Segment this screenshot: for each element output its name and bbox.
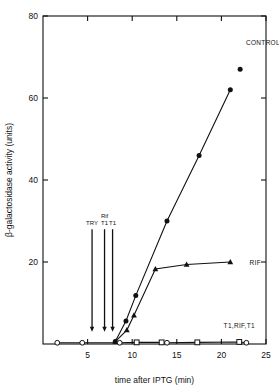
y-tick-label: 40 [29, 175, 39, 185]
annotation-label: T1 [109, 220, 117, 226]
data-point [134, 340, 139, 345]
series-label-t1-rif-t1: T1,RIF,T1 [224, 322, 255, 329]
data-point [131, 312, 137, 317]
data-point [117, 340, 122, 345]
x-tick-label: 10 [127, 350, 137, 360]
annotation-label-upper: Rif [101, 213, 109, 219]
data-point [124, 327, 130, 332]
series-line [115, 90, 230, 342]
data-point [159, 340, 164, 345]
data-point [165, 340, 170, 345]
x-tick-label: 15 [172, 350, 182, 360]
data-point [164, 219, 169, 224]
annotation-arrow-head [102, 327, 106, 332]
x-tick-label: 25 [261, 350, 271, 360]
annotation-arrow-head [90, 327, 94, 332]
y-tick-label: 60 [29, 93, 39, 103]
annotation-arrow-head [110, 327, 114, 332]
data-point [238, 67, 243, 72]
data-point [244, 340, 249, 345]
chart-figure: 51015202520406080time after IPTG (min)β-… [0, 0, 279, 390]
data-point [237, 340, 242, 345]
series-control [115, 90, 230, 342]
x-axis-label: time after IPTG (min) [115, 375, 195, 385]
y-tick-label: 80 [29, 11, 39, 21]
annotation-label: T1 [101, 220, 109, 226]
x-tick-label: 5 [85, 350, 90, 360]
series-label-control: CONTROL [246, 39, 279, 46]
scatter-line-plot: 51015202520406080time after IPTG (min)β-… [0, 0, 279, 390]
series-line [115, 262, 230, 342]
data-point [228, 87, 233, 92]
data-point [195, 340, 200, 345]
plot-frame [43, 16, 266, 344]
data-point [80, 340, 85, 345]
y-tick-label: 20 [29, 257, 39, 267]
series-rif [115, 262, 230, 342]
x-tick-label: 20 [217, 350, 227, 360]
y-axis-label: β-galactosidase activity (units) [4, 123, 14, 237]
data-point [197, 153, 202, 158]
series-t1-rif-t1 [57, 342, 246, 343]
annotation-label: TRY [86, 220, 98, 226]
data-point [123, 319, 128, 324]
series-line [57, 342, 246, 343]
data-point [55, 340, 60, 345]
series-label-rif: RIF [250, 259, 261, 266]
data-point [133, 293, 138, 298]
